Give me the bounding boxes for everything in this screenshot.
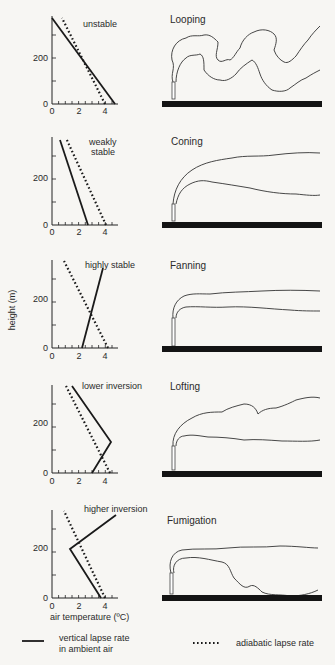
x-tick-0: 0 [49,227,54,237]
ambient-lapse-line [72,386,111,473]
y-tick-0: 0 [43,343,48,353]
y-tick-0: 0 [43,99,48,109]
y-tick-200: 200 [33,418,48,428]
plume-type-label: Fumigation [167,515,216,526]
lapse-rate-axes [52,385,118,473]
legend-solid-label-2: in ambient air [59,644,113,654]
legend-solid-label-1: vertical lapse rate [59,633,130,643]
panel-lower-inversion: 0 200 0 2 4 lower inversion Lofting [33,381,322,486]
stability-label-line-2: stable [91,147,115,157]
stability-label: higher inversion [84,504,148,514]
x-tick-0: 0 [49,601,54,611]
y-tick-0: 0 [43,220,48,230]
looping-plume [172,26,320,99]
x-axis-label: air temperature (ºC) [50,612,129,622]
x-tick-0: 0 [49,106,54,116]
y-tick-200: 200 [33,543,48,553]
ground-bar [162,222,322,228]
stability-label: highly stable [85,260,135,270]
ambient-lapse-line [82,268,103,348]
x-tick-4: 4 [102,476,107,486]
fumigation-plume [170,546,318,596]
ground-bar [162,595,322,601]
y-tick-0: 0 [43,593,48,603]
ambient-lapse-line [70,515,116,598]
x-tick-4: 4 [102,106,107,116]
ground-bar [162,101,322,107]
legend-dotted-label: adiabatic lapse rate [236,638,314,648]
inversion-plume-diagram: 0 200 0 2 4 unstable Looping 0 200 0 2 4… [0,0,335,665]
y-tick-0: 0 [43,468,48,478]
stability-label: lower inversion [82,381,142,391]
x-tick-0: 0 [49,476,54,486]
ambient-lapse-line [60,140,88,225]
panel-higher-inversion: 0 200 0 2 4 higher inversion Fumigation [33,504,322,611]
adiabatic-lapse-line [62,18,105,104]
x-tick-2: 2 [76,476,81,486]
plume-type-label: Lofting [170,381,200,392]
y-axis-label: height (m) [7,290,17,331]
y-tick-200: 200 [33,53,48,63]
adiabatic-lapse-line [66,386,110,473]
legend: vertical lapse rate in ambient air adiab… [22,633,314,654]
x-tick-4: 4 [102,351,107,361]
lapse-rate-axes [52,510,118,598]
adiabatic-lapse-line [64,511,105,598]
ground-bar [162,346,322,352]
fanning-plume [172,290,320,346]
ground-bar [162,471,322,477]
lapse-rate-axes [52,16,118,104]
plume-type-label: Fanning [170,260,206,271]
x-tick-4: 4 [102,227,107,237]
x-tick-2: 2 [76,351,81,361]
plume-type-label: Coning [171,136,203,147]
panel-highly-stable: 0 200 0 2 4 highly stable Fanning [33,260,322,361]
x-tick-2: 2 [76,106,81,116]
panel-weakly-stable: 0 200 0 2 4 weakly stable Coning [33,136,322,237]
x-tick-2: 2 [76,227,81,237]
y-tick-200: 200 [33,173,48,183]
x-tick-4: 4 [102,601,107,611]
lofting-plume [172,397,320,470]
plume-type-label: Looping [170,14,206,25]
stability-label-line-1: weakly [88,137,117,147]
panel-unstable: 0 200 0 2 4 unstable Looping [33,14,322,116]
y-tick-200: 200 [33,294,48,304]
lapse-rate-axes [52,260,118,348]
x-tick-2: 2 [76,601,81,611]
stability-label: unstable [83,19,117,29]
x-tick-0: 0 [49,351,54,361]
coning-plume [172,153,320,221]
